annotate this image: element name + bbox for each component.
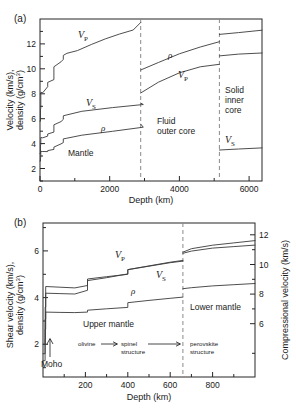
moho-label: Moho — [41, 359, 63, 369]
svg-text:density (g/cm3): density (g/cm3) — [15, 70, 25, 130]
moho-arrow-icon — [47, 339, 53, 358]
panel-b-xaxis-title: Depth (km) — [127, 392, 172, 402]
label-vs-mantle: VS — [86, 97, 96, 111]
curve-rho-lower-mantle — [183, 284, 255, 289]
curve-vs-inner-core — [219, 148, 262, 150]
panel-b-ytick-6: 6 — [34, 246, 39, 256]
label-vp-mantle: VP — [78, 29, 88, 43]
panel-b-left-yaxis-title-line2: density (g/cm — [15, 281, 25, 335]
arrow-olivine-to-spinel-icon — [101, 342, 118, 346]
phase-transition-annotation: olivine spinel structure perovskite stru… — [78, 340, 219, 355]
panel-b: (b) 2 4 6 — [0, 205, 296, 413]
label-rho-mantle: ρ — [100, 123, 106, 133]
svg-text:outer core: outer core — [157, 126, 196, 136]
region-label-upper-mantle: Upper mantle — [83, 319, 134, 329]
panel-a-ytick-8: 8 — [31, 89, 36, 99]
panel-a-ytick-6: 6 — [31, 114, 36, 124]
svg-text:Shear velocity (km/s),: Shear velocity (km/s), — [5, 262, 15, 349]
panel-a-x-ticklabels: 0 2000 4000 6000 — [38, 184, 259, 194]
spinel-label-line1: spinel — [121, 340, 137, 347]
panel-b-xtick-400: 400 — [121, 380, 135, 390]
olivine-label: olivine — [78, 340, 96, 347]
spinel-label-line2: structure — [121, 348, 146, 355]
panel-b-ytick-4: 4 — [34, 293, 39, 303]
svg-text:Velocity (km/s),: Velocity (km/s), — [5, 69, 15, 130]
panel-a-xtick-4000: 4000 — [170, 184, 189, 194]
svg-text:Solid: Solid — [225, 85, 244, 95]
perovskite-label-line2: structure — [190, 348, 215, 355]
panel-b-right-ytick-8: 8 — [259, 289, 264, 299]
panel-b-x-ticks — [64, 372, 234, 377]
svg-text:Fluid: Fluid — [157, 116, 176, 126]
panel-b-right-ytick-12: 12 — [259, 230, 269, 240]
panel-b-xtick-800: 800 — [206, 380, 220, 390]
panel-b-xtick-200: 200 — [78, 380, 92, 390]
panel-a-y-ticklabels: 2 4 6 8 10 12 — [27, 39, 37, 174]
panel-a: (a) 2 4 — [0, 0, 296, 205]
svg-text:inner: inner — [225, 95, 244, 105]
panel-a-plot: 2 4 6 8 10 12 0 2000 4000 600 — [0, 0, 296, 205]
svg-text:density (g/cm3): density (g/cm3) — [15, 275, 25, 335]
region-label-fluid-outer-core: Fluid outer core — [157, 116, 196, 136]
panel-b-left-yaxis-title-line1: Shear velocity (km/s), — [5, 262, 15, 349]
panel-b-right-y-ticks — [250, 235, 255, 353]
region-label-lower-mantle: Lower mantle — [190, 302, 241, 312]
figure-earth-velocity-density-profiles: (a) 2 4 — [0, 0, 296, 413]
region-label-solid-inner-core: Solid inner core — [225, 85, 244, 115]
panel-a-yaxis-title-line1: Velocity (km/s), — [5, 69, 15, 130]
panel-a-xtick-2000: 2000 — [100, 184, 119, 194]
panel-b-right-yaxis-title: Compressional velocity (km/s) — [280, 240, 290, 360]
panel-b-ytick-2: 2 — [34, 339, 39, 349]
panel-b-right-y-ticklabels: 6 8 10 12 — [259, 230, 269, 329]
panel-a-xaxis-title: Depth (km) — [129, 195, 174, 205]
panel-b-plot: 2 4 6 6 8 10 12 — [0, 205, 296, 413]
label-vp-upper-mantle: VP — [115, 249, 125, 263]
label-rho-upper-mantle: ρ — [130, 286, 136, 296]
perovskite-label-line1: perovskite — [190, 340, 219, 347]
panel-a-x-ticks — [40, 176, 249, 181]
panel-b-x-ticklabels: 200 400 600 800 — [78, 380, 220, 390]
panel-a-ytick-12: 12 — [27, 39, 37, 49]
panel-a-xtick-0: 0 — [38, 184, 43, 194]
curve-vp-lower-mantle — [183, 245, 255, 253]
curve-rho-inner-core — [219, 30, 262, 34]
panel-b-right-ytick-6: 6 — [259, 319, 264, 329]
panel-a-yaxis-title: Velocity (km/s), density (g/cm3) — [5, 69, 25, 130]
label-vs-upper-mantle: VS — [156, 269, 166, 283]
region-label-mantle: Mantle — [68, 148, 94, 158]
panel-b-right-ytick-10: 10 — [259, 260, 269, 270]
svg-text:core: core — [225, 105, 242, 115]
panel-a-ytick-2: 2 — [31, 164, 36, 174]
panel-b-left-yaxis-title: Shear velocity (km/s), density (g/cm3) — [5, 262, 25, 349]
panel-a-ytick-10: 10 — [27, 64, 37, 74]
panel-b-left-y-ticklabels: 2 4 6 — [34, 246, 39, 349]
panel-a-yaxis-title-close: ) — [15, 70, 25, 73]
curve-vp-inner-core — [219, 53, 262, 56]
arrow-spinel-to-perovskite-icon — [148, 342, 181, 346]
panel-a-yaxis-title-line2: density (g/cm — [15, 76, 25, 130]
label-vs-inner-core: VS — [225, 134, 235, 148]
label-rho-outer-core: ρ — [167, 50, 173, 60]
panel-b-left-yaxis-title-close: ) — [15, 275, 25, 278]
panel-a-ytick-4: 4 — [31, 139, 36, 149]
panel-b-xtick-600: 600 — [163, 380, 177, 390]
panel-a-xtick-6000: 6000 — [240, 184, 259, 194]
